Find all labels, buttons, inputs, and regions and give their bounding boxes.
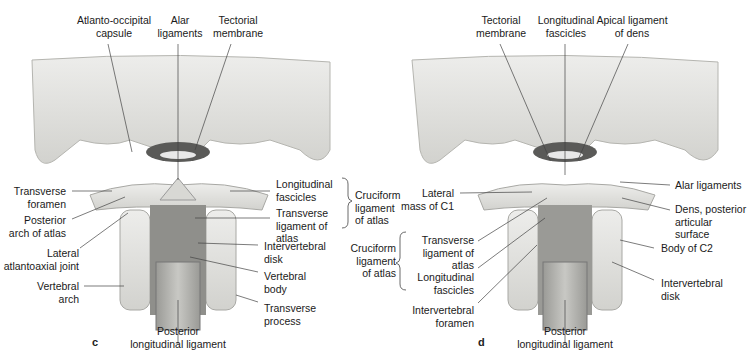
label-alar-ligaments-d: Alar ligaments (675, 179, 748, 192)
label-posterior-longitudinal-ligament-c: Posterior longitudinal ligament (118, 325, 238, 350)
label-lateral-mass-of-c1: Lateral mass of C1 (384, 187, 454, 212)
panel-letter-d: d (478, 336, 485, 348)
label-transverse-ligament-c: Transverse ligament of atlas (276, 207, 346, 245)
label-posterior-longitudinal-ligament-d: Posterior longitudinal ligament (505, 325, 625, 350)
label-longitudinal-fascicles-top: Longitudinal fascicles (530, 14, 602, 39)
label-transverse-ligament-d: Transverse ligament of atlas (400, 234, 474, 272)
anatomy-illustrations (0, 0, 748, 362)
label-intervertebral-disk-d: Intervertebral disk (661, 277, 741, 302)
panel-letter-c: c (92, 336, 98, 348)
label-tectorial-membrane: Tectorial membrane (206, 14, 270, 39)
label-transverse-process: Transverse process (264, 302, 344, 327)
label-cruciform-ligament-d: Cruciform ligament of atlas (340, 242, 396, 280)
label-longitudinal-fascicles-c: Longitudinal fascicles (276, 178, 346, 203)
label-apical-ligament-of-dens: Apical ligament of dens (594, 14, 670, 39)
label-intervertebral-foramen: Intervertebral foramen (390, 304, 474, 329)
label-alar-ligaments: Alar ligaments (152, 14, 208, 39)
label-intervertebral-disk-c: Intervertebral disk (264, 240, 344, 265)
label-vertebral-body: Vertebral body (264, 270, 344, 295)
label-dens-posterior-articular-surface: Dens, posterior articular surface (675, 203, 748, 241)
label-vertebral-arch: Vertebral arch (0, 280, 79, 305)
label-tectorial-membrane-d: Tectorial membrane (466, 14, 536, 39)
label-longitudinal-fascicles-d: Longitudinal fascicles (400, 271, 474, 296)
label-transverse-foramen: Transverse foramen (0, 185, 66, 210)
label-lateral-atlantoaxial-joint: Lateral atlantoaxial joint (0, 247, 79, 272)
label-posterior-arch-of-atlas: Posterior arch of atlas (0, 214, 66, 239)
label-atlanto-occipital-capsule: Atlanto-occipital capsule (66, 14, 162, 39)
label-body-of-c2: Body of C2 (661, 242, 741, 255)
